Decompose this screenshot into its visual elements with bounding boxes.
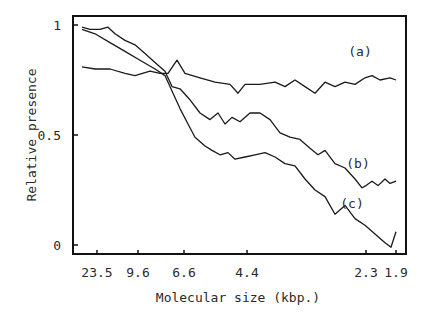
- x-tick-label: 23.5: [81, 265, 112, 280]
- y-tick-label: 1: [53, 18, 61, 33]
- x-tick-label: 1.9: [384, 265, 407, 280]
- x-tick-label: 4.4: [235, 265, 259, 280]
- series-label-c: (c): [340, 196, 363, 211]
- series-label-a: (a): [348, 44, 371, 59]
- x-tick-label: 9.6: [126, 265, 149, 280]
- plot-curves: [82, 27, 396, 247]
- curve-a: [82, 60, 396, 93]
- y-axis: 10.50: [38, 18, 78, 253]
- curve-c: [82, 29, 396, 247]
- y-axis-title: Relative presence: [24, 68, 39, 201]
- y-tick-label: 0.5: [38, 128, 61, 143]
- x-tick-label: 2.3: [354, 265, 377, 280]
- chart-figure: 10.50 23.59.66.64.42.31.9 (a)(b)(c) Mole…: [0, 0, 430, 323]
- x-axis-title: Molecular size (kbp.): [156, 290, 320, 305]
- series-label-b: (b): [346, 156, 369, 171]
- x-tick-label: 6.6: [172, 265, 195, 280]
- y-tick-label: 0: [53, 238, 61, 253]
